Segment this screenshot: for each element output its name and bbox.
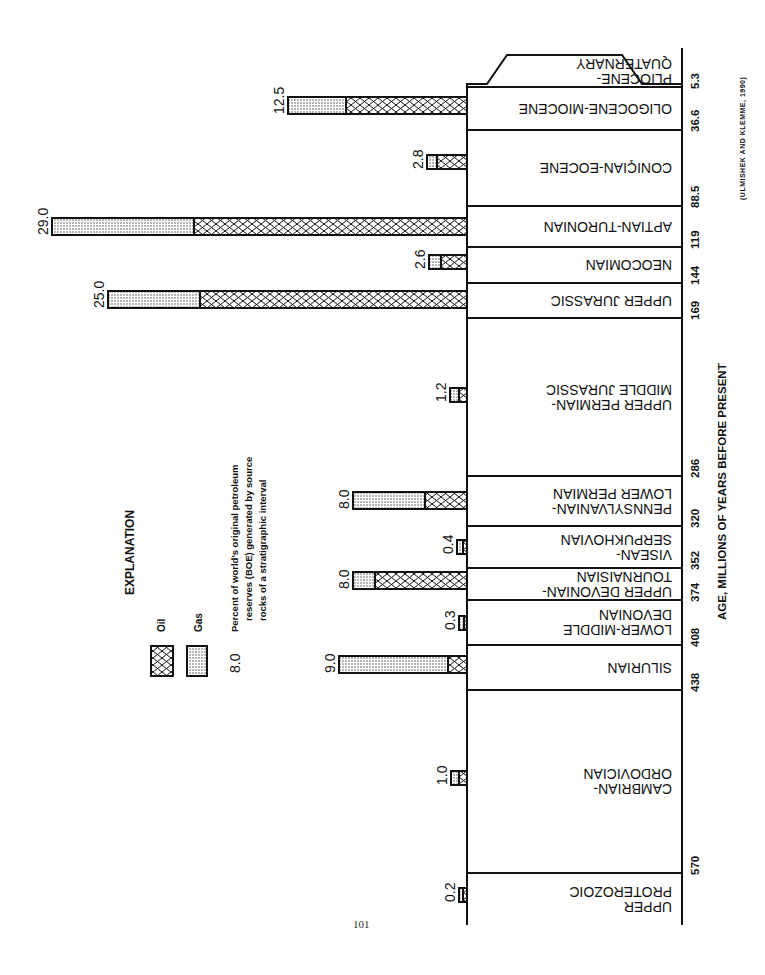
oil-segment	[459, 388, 467, 402]
interval-0: PLIOCENE-QUATERNARY	[467, 55, 682, 87]
bar: 0.4	[440, 534, 467, 554]
age-tick-label: 36.6	[689, 110, 701, 132]
oil-segment	[464, 616, 467, 630]
interval-8: VISEAN-SERPUKHOVIAN	[467, 526, 682, 563]
age-axis: 5.336.688.511914416928632035237440843857…	[689, 73, 701, 875]
interval-label: CONIÇIAN-EOCENE	[540, 160, 672, 176]
source-citation: (ULMISHEK AND KLEMME, 1990)	[739, 77, 747, 200]
interval-label: OLIGOCENE-MIOCENE	[519, 101, 672, 117]
interval-label: ORDOVICIAN	[583, 766, 672, 782]
gas-segment	[288, 97, 346, 114]
age-tick-label: 144	[689, 265, 701, 285]
legend-title: EXPLANATION	[123, 510, 137, 595]
gas-segment	[451, 771, 459, 785]
interval-label: PLIOCENE-	[596, 71, 672, 87]
interval-label: UPPER PERMIAN-	[551, 397, 672, 413]
bar-value-label: 8.0	[336, 489, 352, 509]
petroleum-source-rock-chart: PLIOCENE-QUATERNARYOLIGOCENE-MIOCENECONI…	[0, 0, 765, 975]
interval-label: QUATERNARY	[575, 56, 672, 72]
interval-1: OLIGOCENE-MIOCENE	[467, 87, 682, 117]
interval-label: LOWER-MIDDLE	[563, 622, 672, 638]
bar: 8.0	[336, 489, 467, 509]
stratigraphic-column: PLIOCENE-QUATERNARYOLIGOCENE-MIOCENECONI…	[467, 48, 682, 925]
age-tick-label: 438	[689, 672, 701, 692]
interval-13: UPPERPROTEROZOIC	[467, 873, 682, 915]
oil-swatch-icon	[151, 646, 173, 676]
page-number: 101	[353, 918, 370, 930]
age-tick-label: 119	[689, 230, 701, 249]
gas-segment	[339, 656, 448, 673]
bar: 2.6	[412, 249, 467, 269]
bar: 9.0	[322, 653, 467, 673]
gas-segment	[353, 572, 375, 589]
oil-segment	[441, 255, 467, 269]
interval-7: PENNSYLVANIAN-LOWER PERMIAN	[467, 476, 682, 517]
interval-3: APTIAN-TURONIAN	[467, 206, 682, 235]
bar-value-label: 12.5	[271, 87, 287, 114]
bar: 8.0	[336, 569, 467, 589]
gas-segment	[52, 218, 194, 235]
bar-value-label: 0.2	[442, 882, 458, 902]
interval-label: SILURIAN	[607, 660, 672, 676]
oil-segment	[463, 888, 467, 902]
bar: 0.3	[442, 610, 467, 630]
bar: 12.5	[271, 87, 467, 114]
oil-segment	[459, 771, 467, 785]
interval-12: CAMBRIAN-ORDOVICIAN	[467, 690, 682, 797]
oil-segment	[375, 572, 467, 589]
legend-example-value: 8.0	[227, 653, 243, 673]
oil-segment	[463, 540, 467, 554]
interval-label: APTIAN-TURONIAN	[544, 219, 672, 235]
interval-label: UPPER JURASSIC	[551, 293, 672, 309]
oil-segment	[448, 656, 467, 673]
gas-segment	[427, 155, 437, 169]
legend: EXPLANATION Oil Gas 8.0 Percent of world…	[123, 457, 268, 676]
bar-value-label: 25.0	[91, 281, 107, 308]
bar: 2.8	[410, 149, 467, 169]
interval-11: SILURIAN	[467, 645, 682, 676]
age-tick-label: 352	[689, 551, 701, 570]
age-tick-label: 169	[689, 301, 701, 320]
interval-2: CONIÇIAN-EOCENE	[467, 130, 682, 176]
interval-label: DEVONIAN	[599, 607, 672, 623]
interval-5: UPPER JURASSIC	[467, 283, 682, 309]
bar-value-label: 2.8	[410, 149, 426, 169]
age-tick-label: 88.5	[689, 185, 701, 208]
age-tick-label: 570	[689, 856, 701, 875]
interval-label: CAMBRIAN-	[593, 781, 672, 797]
gas-segment	[429, 255, 441, 269]
interval-label: VISEAN-	[616, 547, 672, 563]
legend-desc-line-2: reserves (BOE) generated by source	[243, 457, 254, 621]
gas-segment	[108, 291, 200, 308]
bar: 29.0	[35, 208, 467, 235]
bar-value-label: 1.0	[434, 765, 450, 785]
interval-label: UPPER	[624, 899, 672, 915]
x-axis-label: AGE, MILLIONS OF YEARS BEFORE PRESENT	[716, 363, 728, 620]
interval-label: UPPER DEVONIAN-	[542, 584, 672, 600]
bar: 25.0	[91, 281, 467, 308]
interval-label: LOWER PERMIAN	[553, 486, 672, 502]
interval-label: SERPUKHOVIAN	[561, 532, 672, 548]
interval-label: PROTEROZOIC	[569, 884, 672, 900]
bar: 0.2	[442, 882, 467, 902]
bar-value-label: 0.3	[442, 610, 458, 630]
legend-gas-label: Gas	[193, 613, 204, 632]
interval-6: UPPER PERMIAN-MIDDLE JURASSIC	[467, 318, 682, 413]
bar-value-label: 9.0	[322, 653, 338, 673]
bar-value-label: 1.2	[433, 382, 449, 402]
interval-label: NEOCOMIAN	[586, 257, 672, 273]
oil-segment	[425, 492, 467, 509]
oil-segment	[200, 291, 467, 308]
interval-label: TOURNAISIAN	[577, 569, 672, 585]
age-tick-label: 408	[689, 627, 701, 647]
oil-segment	[346, 97, 467, 114]
age-tick-label: 320	[689, 509, 701, 528]
oil-segment	[437, 155, 467, 169]
legend-desc-line-1: Percent of world's original petroleum	[229, 465, 240, 632]
gas-swatch-icon	[187, 646, 207, 676]
legend-desc-line-3: rocks of a stratigraphic interval	[257, 480, 268, 622]
age-tick-label: 286	[689, 459, 701, 478]
interval-label: PENNSYLVANIAN-	[552, 501, 672, 517]
age-tick-label: 5.3	[689, 73, 701, 89]
age-tick-label: 374	[689, 582, 701, 602]
